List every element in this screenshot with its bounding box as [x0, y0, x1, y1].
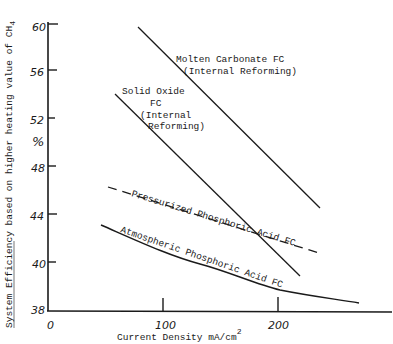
x-axis — [47, 311, 392, 312]
efficiency-chart: 60 56 52 48 44 40 38 % 0 100 200 Current… — [0, 0, 393, 344]
svg-text:100: 100 — [155, 319, 176, 332]
y-unit-label: % — [32, 134, 44, 149]
y-ticks — [48, 24, 58, 262]
svg-text:38: 38 — [31, 304, 45, 317]
svg-text:52: 52 — [30, 114, 44, 127]
molten-carbonate-label: Molten Carbonate FC (Internal Reforming) — [176, 54, 297, 77]
solid-oxide-label: Solid Oxide FC (Internal Reforming) — [122, 86, 205, 132]
svg-text:Solid Oxide: Solid Oxide — [122, 86, 185, 97]
solid-oxide-line — [115, 94, 300, 276]
svg-text:60: 60 — [32, 21, 46, 34]
svg-text:(Internal: (Internal — [140, 110, 192, 121]
x-ticks — [163, 297, 278, 311]
x-axis-label: Current Density mA/cm2 — [117, 327, 242, 343]
y-tick-labels: 60 56 52 48 44 40 38 % — [30, 21, 46, 317]
svg-text:FC: FC — [150, 98, 162, 109]
svg-text:0: 0 — [47, 319, 54, 332]
x-tick-labels: 0 100 200 — [47, 319, 289, 332]
svg-text:56: 56 — [30, 66, 44, 79]
svg-text:200: 200 — [268, 319, 289, 332]
svg-text:Molten Carbonate FC: Molten Carbonate FC — [176, 54, 285, 65]
svg-text:48: 48 — [31, 162, 45, 175]
svg-text:Reforming): Reforming) — [148, 121, 205, 132]
svg-text:40: 40 — [32, 258, 46, 271]
svg-text:44: 44 — [30, 210, 44, 223]
svg-text:(Internal Reforming): (Internal Reforming) — [183, 66, 297, 77]
y-axis-label: System Efficiency based on higher heatin… — [4, 21, 17, 328]
